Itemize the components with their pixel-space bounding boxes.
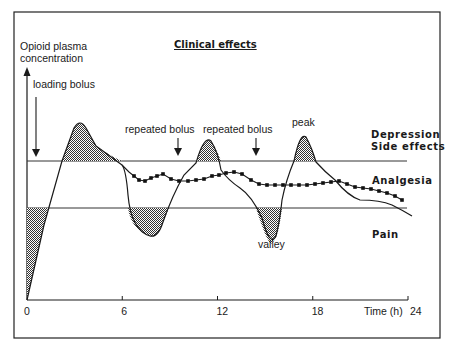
infusion-marker — [210, 174, 214, 178]
infusion-marker — [313, 182, 317, 186]
infusion-marker — [155, 174, 159, 178]
x-tick-label-12: 12 — [217, 305, 229, 317]
infusion-marker — [281, 183, 285, 187]
x-axis-label: Time (h) — [364, 305, 403, 317]
pain-shaded-areas — [27, 208, 282, 300]
infusion-marker — [132, 174, 136, 178]
infusion-marker — [257, 182, 261, 186]
infusion-marker — [217, 173, 221, 177]
repeated-bolus-2-arrow-icon — [252, 148, 260, 156]
infusion-marker — [224, 171, 228, 175]
x-tick-label-6: 6 — [121, 305, 127, 317]
infusion-marker — [361, 186, 365, 190]
infusion-marker — [337, 179, 341, 183]
infusion-marker — [177, 179, 181, 183]
zone-label-side-effects: Side effects — [371, 141, 445, 152]
infusion-marker — [400, 198, 404, 202]
zone-label-analgesia: Analgesia — [372, 175, 433, 186]
infusion-marker — [143, 179, 147, 183]
annotation-repeated-bolus-1: repeated bolus — [125, 123, 194, 135]
y-axis-label-line1: Opioid plasma — [20, 40, 87, 52]
infusion-marker — [232, 170, 236, 174]
infusion-marker — [249, 178, 253, 182]
infusion-marker — [202, 177, 206, 181]
infusion-marker — [353, 185, 357, 189]
x-ticks: 06121824 — [24, 296, 422, 317]
x-tick-label-24: 24 — [410, 305, 422, 317]
infusion-marker — [149, 176, 153, 180]
annotation-repeated-bolus-2: repeated bolus — [203, 123, 272, 135]
y-axis-arrow-icon — [24, 67, 31, 76]
infusion-marker — [194, 178, 198, 182]
zone-label-pain: Pain — [372, 229, 399, 240]
annotation-peak: peak — [292, 116, 316, 128]
infusion-marker — [345, 182, 349, 186]
infusion-marker — [273, 183, 277, 187]
infusion-marker — [265, 183, 269, 187]
infusion-marker — [289, 183, 293, 187]
continuous-infusion-curve — [122, 165, 402, 200]
infusion-marker — [305, 183, 309, 187]
infusion-marker — [297, 183, 301, 187]
x-tick-label-0: 0 — [24, 305, 30, 317]
infusion-marker — [186, 179, 190, 183]
y-axis-label-line2: concentration — [20, 52, 83, 64]
loading-bolus-arrow-icon — [32, 149, 40, 157]
annotation-loading-bolus: loading bolus — [33, 78, 95, 90]
infusion-marker — [169, 177, 173, 181]
diagram-title: Clinical effects — [174, 39, 257, 50]
infusion-marker — [161, 172, 165, 176]
pharmacokinetic-diagram: Clinical effects Opioid plasma concentra… — [0, 0, 452, 354]
infusion-marker — [377, 189, 381, 193]
infusion-marker — [329, 180, 333, 184]
annotation-valley: valley — [258, 238, 286, 250]
infusion-marker — [369, 187, 373, 191]
zone-label-depression: Depression — [371, 129, 440, 140]
infusion-marker — [393, 194, 397, 198]
infusion-marker — [137, 178, 141, 182]
infusion-marker — [240, 172, 244, 176]
x-tick-label-18: 18 — [312, 305, 324, 317]
repeated-bolus-1-arrow-icon — [174, 148, 182, 156]
infusion-marker — [321, 181, 325, 185]
infusion-marker — [385, 191, 389, 195]
